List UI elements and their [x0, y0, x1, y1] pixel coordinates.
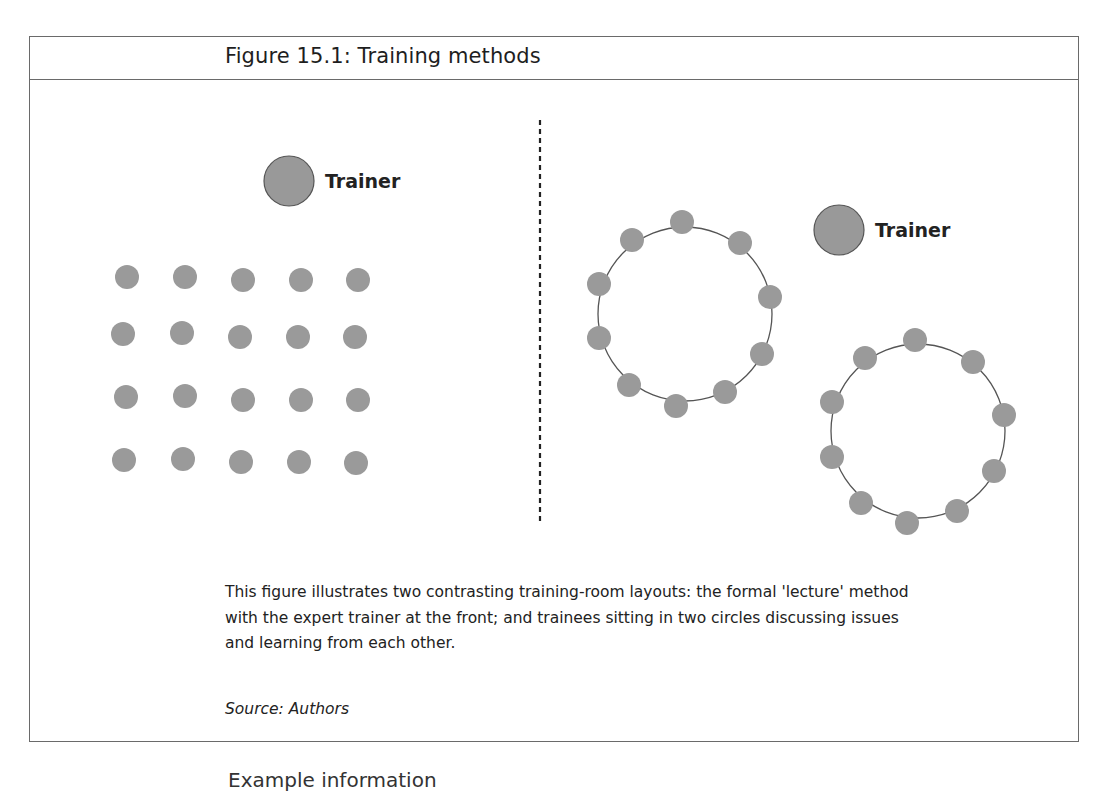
trainee-dot-icon: [758, 285, 782, 309]
trainee-dot-icon: [982, 459, 1006, 483]
trainee-dot-icon: [286, 325, 310, 349]
trainee-dot-icon: [587, 272, 611, 296]
trainee-dot-icon: [115, 265, 139, 289]
trainee-dot-icon: [617, 373, 641, 397]
trainer-icon: [814, 205, 864, 255]
figure-source: Source: Authors: [225, 700, 349, 718]
discussion-circles-panel: Trainer: [587, 205, 1016, 535]
trainee-dot-icon: [231, 268, 255, 292]
trainee-dot-icon: [670, 210, 694, 234]
trainer-icon: [264, 156, 314, 206]
caption-line: and learning from each other.: [225, 631, 1085, 657]
caption-line: This figure illustrates two contrasting …: [225, 580, 1085, 606]
trainee-dot-icon: [620, 228, 644, 252]
trainee-dot-icon: [346, 388, 370, 412]
trainee-dot-icon: [112, 448, 136, 472]
caption-line: with the expert trainer at the front; an…: [225, 606, 1085, 632]
trainee-dot-icon: [170, 321, 194, 345]
discussion-circle: [820, 328, 1016, 535]
trainee-dot-icon: [171, 447, 195, 471]
lecture-layout-panel: Trainer: [111, 156, 401, 475]
trainee-dot-icon: [820, 390, 844, 414]
trainee-dot-icon: [713, 380, 737, 404]
trainee-dot-icon: [820, 445, 844, 469]
trainee-dot-icon: [750, 342, 774, 366]
discussion-circle: [587, 210, 782, 418]
trainee-dot-icon: [228, 325, 252, 349]
trainee-dot-icon: [992, 403, 1016, 427]
page-text-cut-off: Example information: [228, 768, 437, 792]
trainee-dot-icon: [903, 328, 927, 352]
trainee-dot-icon: [895, 511, 919, 535]
trainee-dot-icon: [664, 394, 688, 418]
trainee-dot-icon: [173, 384, 197, 408]
trainee-dot-icon: [229, 450, 253, 474]
trainee-dot-icon: [587, 326, 611, 350]
trainee-dot-icon: [289, 388, 313, 412]
figure-caption: This figure illustrates two contrasting …: [225, 580, 1085, 657]
trainee-dot-icon: [346, 268, 370, 292]
trainee-dot-icon: [343, 325, 367, 349]
trainee-dot-icon: [173, 265, 197, 289]
trainee-dot-icon: [287, 450, 311, 474]
trainee-dot-icon: [231, 388, 255, 412]
trainee-dot-icon: [849, 491, 873, 515]
trainee-dot-icon: [728, 231, 752, 255]
trainee-dot-icon: [289, 268, 313, 292]
trainee-dot-icon: [344, 451, 368, 475]
trainee-dot-icon: [961, 350, 985, 374]
trainer-label: Trainer: [875, 219, 951, 241]
trainee-dot-icon: [111, 322, 135, 346]
trainer-label: Trainer: [325, 170, 401, 192]
trainee-dot-icon: [114, 385, 138, 409]
trainee-dot-icon: [945, 499, 969, 523]
trainee-dot-icon: [853, 346, 877, 370]
